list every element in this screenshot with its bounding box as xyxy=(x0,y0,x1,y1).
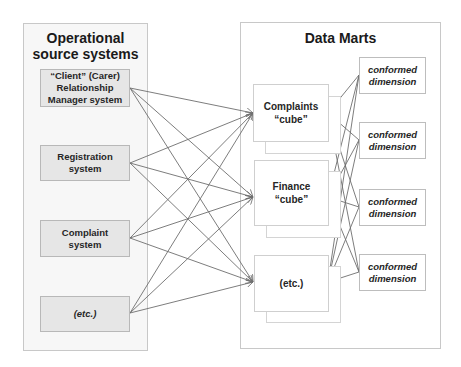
label: “cube” xyxy=(273,193,311,206)
label: Manager system xyxy=(48,94,122,106)
label: conformed xyxy=(368,129,417,141)
conformed-dimension-4: conformed dimension xyxy=(359,254,426,291)
label: “cube” xyxy=(264,113,318,126)
cube-complaints: Complaints “cube” xyxy=(253,84,329,142)
label: conformed xyxy=(368,64,417,76)
conformed-dimension-1: conformed dimension xyxy=(359,57,426,94)
label: Relationship xyxy=(48,82,122,94)
label: “Client” (Carer) xyxy=(48,70,122,82)
source-system-registration: Registration system xyxy=(40,145,130,181)
source-to-cube-arrows xyxy=(130,88,253,313)
label: dimension xyxy=(368,208,417,220)
label: conformed xyxy=(368,261,417,273)
source-system-client-relationship-manager: “Client” (Carer) Relationship Manager sy… xyxy=(40,69,130,107)
label: Complaints xyxy=(264,100,318,113)
label: Complaint xyxy=(62,227,108,239)
conformed-dimension-3: conformed dimension xyxy=(359,189,426,226)
source-system-etc: (etc.) xyxy=(40,296,130,332)
label: conformed xyxy=(368,196,417,208)
label: (etc.) xyxy=(280,277,304,290)
label: system xyxy=(62,239,108,251)
label: dimension xyxy=(368,273,417,285)
source-system-complaint: Complaint system xyxy=(40,220,130,257)
label: (etc.) xyxy=(74,308,97,320)
cube-etc: (etc.) xyxy=(254,255,329,312)
label: dimension xyxy=(368,76,417,88)
label: system xyxy=(57,163,112,175)
cube-finance: Finance “cube” xyxy=(254,160,329,226)
label: Finance xyxy=(273,180,311,193)
label: Registration xyxy=(57,151,112,163)
conformed-dimension-2: conformed dimension xyxy=(359,122,426,159)
label: dimension xyxy=(368,141,417,153)
